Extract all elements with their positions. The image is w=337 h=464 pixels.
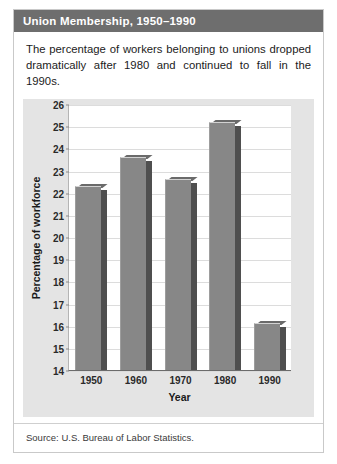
bar-body <box>120 157 146 370</box>
bar-1990: 1990 <box>254 323 286 370</box>
bar-body <box>254 323 280 370</box>
y-tick-label: 18 <box>53 277 64 288</box>
bar-1980: 1980 <box>209 122 241 370</box>
y-tick-label: 26 <box>53 100 64 111</box>
bar-1950: 1950 <box>75 186 107 370</box>
plot-area: 14151617181920212223242526 1950196019701… <box>68 105 291 371</box>
x-tick-label: 1990 <box>254 375 286 386</box>
page-title: Union Membership, 1950–1990 <box>23 15 196 27</box>
y-tick-label: 20 <box>53 233 64 244</box>
y-tick-label: 21 <box>53 210 64 221</box>
bar-shadow-side <box>101 190 107 370</box>
bar-shadow-side <box>235 126 241 370</box>
source-note: Source: U.S. Bureau of Labor Statistics. <box>14 423 323 452</box>
bar-shadow-side <box>280 327 286 370</box>
y-axis-title: Percentage of workforce <box>29 105 43 371</box>
bar-body <box>75 186 101 370</box>
x-tick-label: 1970 <box>165 375 197 386</box>
y-tick-label: 25 <box>53 122 64 133</box>
bar-1970: 1970 <box>165 179 197 370</box>
y-tick-label: 24 <box>53 144 64 155</box>
bar-body <box>165 179 191 370</box>
y-tick-label: 22 <box>53 188 64 199</box>
chart-panel: Percentage of workforce 1415161718192021… <box>23 99 314 417</box>
y-tick-label: 19 <box>53 255 64 266</box>
y-tick-label: 17 <box>53 299 64 310</box>
chart-card: Union Membership, 1950–1990 The percenta… <box>13 9 324 453</box>
y-tick-mark <box>66 371 69 372</box>
y-tick-label: 23 <box>53 166 64 177</box>
x-tick-label: 1950 <box>75 375 107 386</box>
bar-shadow-side <box>146 161 152 370</box>
bar-body <box>209 122 235 370</box>
card-header: Union Membership, 1950–1990 <box>14 10 323 32</box>
gridline <box>69 371 291 372</box>
y-tick-label: 14 <box>53 366 64 377</box>
x-tick-label: 1960 <box>120 375 152 386</box>
y-tick-label: 15 <box>53 343 64 354</box>
bar-shadow-side <box>191 183 197 370</box>
y-axis-title-label: Percentage of workforce <box>30 177 42 300</box>
x-tick-label: 1980 <box>209 375 241 386</box>
card-description: The percentage of workers belonging to u… <box>14 32 323 97</box>
bar-1960: 1960 <box>120 157 152 370</box>
y-tick-label: 16 <box>53 321 64 332</box>
x-axis-title: Year <box>68 391 291 403</box>
bars-group: 19501960197019801990 <box>69 105 291 370</box>
